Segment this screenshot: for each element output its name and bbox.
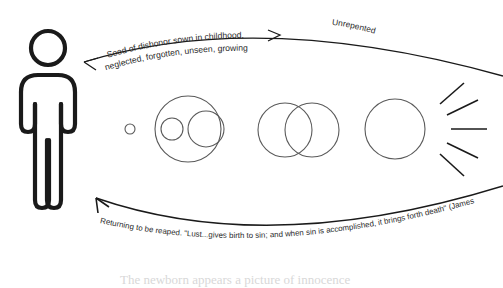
growth-stage-1a: [161, 118, 183, 140]
person-head: [31, 31, 65, 65]
person-right-leg: [47, 104, 61, 208]
cut-off-paragraph: The newborn appears a picture of innocen…: [0, 272, 503, 288]
seed-dot: [125, 124, 135, 134]
ray-3: [447, 143, 478, 158]
label-unrepented: Unrepented: [332, 17, 378, 36]
ray-5: [440, 83, 464, 104]
radiating-burst: [440, 83, 487, 176]
person-shoulders: [21, 75, 75, 132]
growth-stage-1b: [188, 111, 224, 147]
diagram-svg: Seed of dishonor sown in childhood, negl…: [0, 0, 503, 288]
growth-stage-4: [365, 99, 425, 159]
growth-circles: [125, 96, 425, 162]
diagram-canvas: Seed of dishonor sown in childhood, negl…: [0, 0, 503, 288]
person-figure: [21, 31, 75, 208]
ray-4: [440, 154, 464, 176]
ray-1: [447, 100, 478, 115]
cut-off-text: The newborn appears a picture of innocen…: [120, 272, 503, 287]
